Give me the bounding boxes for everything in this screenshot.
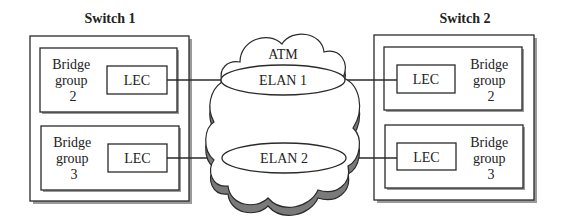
elan-1-label: ELAN 1 xyxy=(259,73,307,88)
elan-2: ELAN 2 xyxy=(222,143,346,173)
switch-2-bridge-group-2: LEC Bridge group 2 xyxy=(384,47,524,112)
lec-label: LEC xyxy=(413,72,439,87)
lec-label: LEC xyxy=(124,151,150,166)
lec-label: LEC xyxy=(413,150,439,165)
atm-cloud: ATM ELAN 1 ELAN 2 xyxy=(206,34,360,215)
switch-1: Switch 1 Bridge group 2 LEC Bridge group… xyxy=(30,11,192,204)
switch-2-label: Switch 2 xyxy=(440,11,491,26)
switch-1-bridge-group-2: Bridge group 2 LEC xyxy=(40,48,179,114)
switch-1-label: Switch 1 xyxy=(85,11,136,26)
elan-2-label: ELAN 2 xyxy=(260,151,308,166)
atm-label: ATM xyxy=(268,47,298,62)
elan-1: ELAN 1 xyxy=(221,65,345,95)
switch-2: Switch 2 LEC Bridge group 2 LEC Bridge g… xyxy=(374,11,537,203)
switch-1-bridge-group-3: Bridge group 3 LEC xyxy=(41,126,181,192)
switch-2-bridge-group-3: LEC Bridge group 3 xyxy=(385,125,525,190)
lane-diagram: Switch 1 Bridge group 2 LEC Bridge group… xyxy=(0,0,561,221)
lec-label: LEC xyxy=(124,73,150,88)
